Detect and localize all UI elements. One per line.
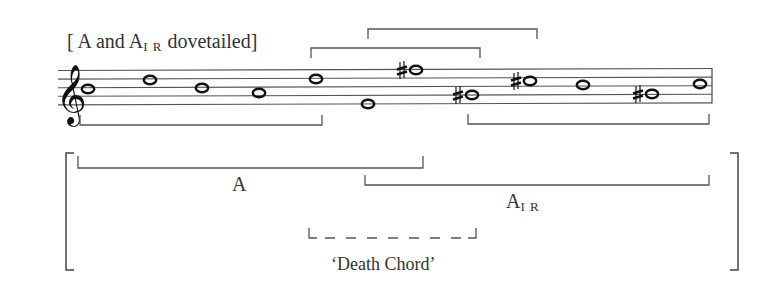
- segment-bracket-a-ir: [365, 175, 709, 185]
- segment-bracket-death-chord-end-right: [468, 228, 476, 238]
- notehead: [144, 76, 156, 85]
- bracket-above: [311, 48, 480, 58]
- staff-line: [58, 69, 712, 71]
- bracket-above: [368, 29, 537, 39]
- notehead: [694, 80, 706, 89]
- sharp-icon: [397, 61, 407, 79]
- label-a: A: [232, 173, 246, 196]
- staff-line: [58, 86, 712, 88]
- whole-note: [511, 72, 536, 90]
- title-open: [ A and A: [67, 30, 143, 52]
- sharp-icon: [511, 72, 521, 90]
- outer-bracket-right: [730, 153, 738, 270]
- whole-note: [577, 81, 589, 90]
- treble-clef-icon: 𝄞: [56, 64, 87, 127]
- label-a-ir: AI R: [506, 190, 540, 213]
- segment-bracket-a: [78, 156, 423, 168]
- title-subscript: I R: [143, 39, 162, 54]
- diagram-title: [ A and AI R dovetailed]: [67, 30, 257, 53]
- segment-bracket-death-chord-end-left: [309, 228, 317, 238]
- bracket-below: [80, 115, 322, 125]
- whole-note: [196, 84, 208, 93]
- notehead: [577, 81, 589, 90]
- outer-bracket-left: [66, 153, 74, 270]
- notehead: [410, 66, 422, 75]
- bracket-below: [468, 114, 709, 124]
- staff-line: [58, 94, 712, 96]
- notehead: [196, 84, 208, 93]
- title-close: dovetailed]: [162, 30, 257, 52]
- whole-note: [694, 80, 706, 89]
- whole-note: [144, 76, 156, 85]
- label-death-chord: ‘Death Chord’: [331, 254, 435, 275]
- staff-line: [58, 103, 712, 105]
- whole-note: [310, 75, 322, 84]
- notehead: [310, 75, 322, 84]
